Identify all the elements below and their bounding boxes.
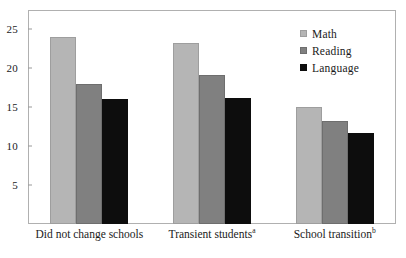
bar-language-group-2 [225,98,251,224]
reading-swatch [300,47,307,54]
bar-reading-group-3 [322,121,348,224]
language-swatch [300,64,307,71]
y-axis-tick-label: 10 [6,140,18,152]
y-axis: 510152025 [0,10,24,224]
bar-math-group-2 [173,43,199,224]
x-axis-category-text: Did not change schools [36,228,144,240]
legend: MathReadingLanguage [300,25,392,76]
x-axis-category-text: School transition [294,228,372,240]
x-axis: Did not change schoolsTransient students… [28,228,396,250]
y-axis-tick-label: 25 [6,23,18,35]
bar-language-group-3 [348,133,374,224]
bar-chart: 510152025 Did not change schoolsTransien… [0,0,406,258]
x-axis-category-label: Transient studentsa [169,228,256,240]
legend-item-language: Language [300,59,392,76]
y-axis-tick-label: 15 [6,101,18,113]
y-axis-tick-label: 20 [6,62,18,74]
math-swatch [300,30,307,37]
bar-reading-group-2 [199,75,225,224]
x-axis-category-label: Did not change schools [36,228,144,240]
legend-item-label: Language [312,62,359,74]
bar-language-group-1 [102,99,128,224]
x-axis-category-footnote-marker: a [252,226,255,235]
bar-reading-group-1 [76,84,102,224]
bar-math-group-3 [296,107,322,225]
legend-item-math: Math [300,25,392,42]
x-axis-category-text: Transient students [169,228,253,240]
x-axis-category-label: School transitionb [294,228,376,240]
y-axis-tick-label: 5 [12,179,18,191]
legend-item-label: Reading [312,45,352,57]
legend-item-reading: Reading [300,42,392,59]
x-axis-category-footnote-marker: b [372,226,376,235]
legend-item-label: Math [312,28,337,40]
bar-math-group-1 [50,37,76,224]
